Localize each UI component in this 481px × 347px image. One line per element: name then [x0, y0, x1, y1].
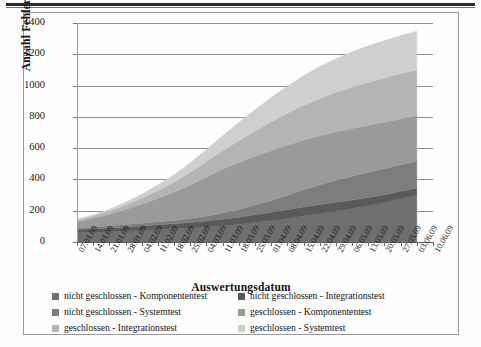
legend-item[interactable]: nicht geschlossen - Komponententest [52, 290, 238, 302]
y-axis-tick-label: 200 [5, 204, 45, 215]
y-axis-tick-label: 1000 [5, 79, 45, 90]
legend-item[interactable]: geschlossen - Systemtest [238, 322, 442, 334]
plot-area [77, 23, 433, 242]
y-axis-tick-label: 600 [5, 141, 45, 152]
legend-label: nicht geschlossen - Integrationstest [250, 290, 385, 302]
legend-label: geschlossen - Systemtest [250, 322, 345, 334]
legend-item[interactable]: geschlossen - Integrationstest [52, 322, 238, 334]
y-axis-tick-label: 1400 [5, 16, 45, 27]
plot-clip [77, 23, 433, 242]
y-axis-line [77, 23, 78, 243]
y-axis-tick-label: 0 [5, 235, 45, 246]
chart-legend: nicht geschlossen - Komponententestnicht… [52, 290, 442, 334]
legend-swatch-icon [238, 325, 245, 332]
y-axis-tick-label: 1200 [5, 47, 45, 58]
chart-frame: Anzahl Fehler 0200400600800100012001400 … [23, 12, 459, 335]
legend-swatch-icon [52, 309, 59, 316]
legend-label: nicht geschlossen - Komponententest [64, 290, 207, 302]
stacked-area-series [77, 23, 433, 242]
legend-label: nicht geschlossen - Systemtest [64, 306, 181, 318]
legend-swatch-icon [52, 325, 59, 332]
legend-swatch-icon [52, 293, 59, 300]
legend-item[interactable]: geschlossen - Komponententest [238, 306, 442, 318]
y-axis-tick-label: 400 [5, 172, 45, 183]
legend-item[interactable]: nicht geschlossen - Systemtest [52, 306, 238, 318]
legend-swatch-icon [238, 293, 245, 300]
chart-page: Anzahl Fehler 0200400600800100012001400 … [0, 0, 481, 347]
legend-swatch-icon [238, 309, 245, 316]
page-rule-thick [6, 3, 475, 6]
legend-item[interactable]: nicht geschlossen - Integrationstest [238, 290, 442, 302]
page-rule-thin [6, 7, 475, 8]
legend-label: geschlossen - Integrationstest [64, 322, 177, 334]
legend-label: geschlossen - Komponententest [250, 306, 372, 318]
y-axis-tick-label: 800 [5, 110, 45, 121]
